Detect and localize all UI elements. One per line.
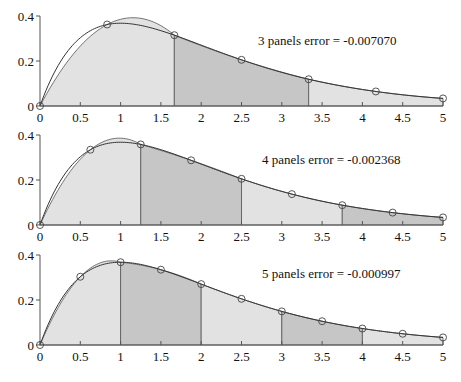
x-tick-label: 2.5 [233,229,249,244]
x-tick-label: 3 [279,229,286,244]
x-tick-label: 3 [279,110,286,125]
simpson-panel-area [40,138,141,225]
y-tick-label: 0 [28,99,35,114]
x-tick-label: 0.5 [72,110,88,125]
simpson-rule-figure: 00.511.522.533.544.5500.20.43 panels err… [0,0,461,382]
x-tick-label: 1.5 [153,110,169,125]
y-tick-label: 0.2 [18,293,34,308]
simpson-panel-area [282,311,363,345]
x-tick-label: 0 [37,349,44,364]
y-tick-label: 0 [28,218,35,233]
x-tick-label: 4 [359,110,366,125]
x-tick-label: 4.5 [395,110,411,125]
x-tick-label: 3 [279,349,286,364]
panel-4: 00.511.522.533.544.5500.20.44 panels err… [18,128,447,244]
x-tick-label: 4 [359,349,366,364]
panel-error-label: 5 panels error = -0.000997 [262,266,401,281]
simpson-panel-area [201,284,282,345]
x-tick-label: 1.5 [153,349,169,364]
x-tick-label: 0 [37,110,44,125]
x-tick-label: 2 [198,229,205,244]
x-tick-label: 1 [117,349,124,364]
x-tick-label: 1.5 [153,229,169,244]
x-tick-label: 2 [198,349,205,364]
x-tick-label: 1 [117,110,124,125]
x-tick-label: 4 [359,229,366,244]
x-tick-label: 2.5 [233,110,249,125]
y-tick-label: 0.4 [18,9,35,24]
x-tick-label: 5 [440,229,447,244]
x-tick-label: 0.5 [72,349,88,364]
x-tick-label: 5 [440,110,447,125]
y-tick-label: 0.2 [18,173,34,188]
x-tick-label: 3.5 [314,349,330,364]
y-tick-label: 0.4 [18,248,35,263]
x-tick-label: 3.5 [314,229,330,244]
y-tick-label: 0.4 [18,128,35,143]
panel-error-label: 3 panels error = -0.007070 [258,33,396,48]
x-tick-label: 5 [440,349,447,364]
y-tick-label: 0.2 [18,54,34,69]
panel-3: 00.511.522.533.544.5500.20.43 panels err… [18,9,447,125]
x-tick-label: 4.5 [395,229,411,244]
x-tick-label: 4.5 [395,349,411,364]
x-tick-label: 3.5 [314,110,330,125]
x-tick-label: 0.5 [72,229,88,244]
panel-error-label: 4 panels error = -0.002368 [262,152,400,167]
x-tick-label: 2.5 [233,349,249,364]
x-tick-label: 1 [117,229,124,244]
x-tick-label: 2 [198,110,205,125]
panel-5: 00.511.522.533.544.5500.20.45 panels err… [18,248,447,364]
y-tick-label: 0 [28,338,35,353]
simpson-panel-area [121,262,202,345]
x-tick-label: 0 [37,229,44,244]
